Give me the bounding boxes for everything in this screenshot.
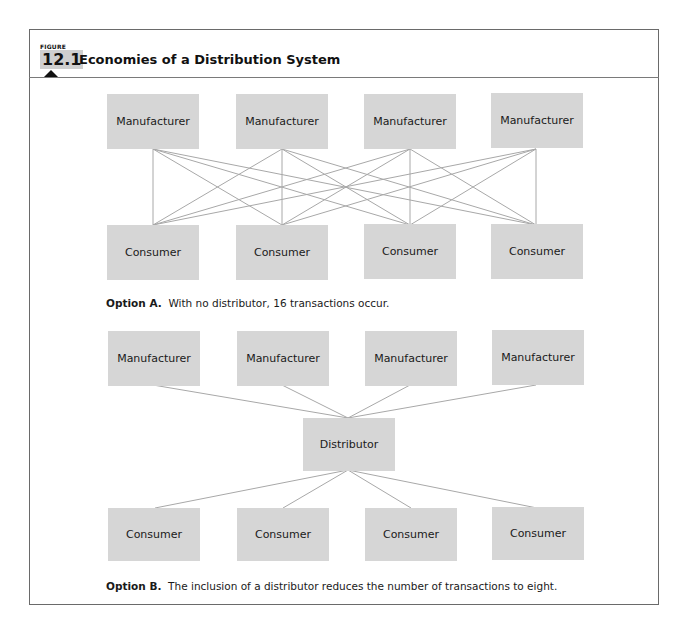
option-a-manufacturer-4: Manufacturer (491, 93, 583, 148)
option-a-consumer-1: Consumer (107, 225, 199, 280)
option-b-consumer-3: Consumer (365, 508, 457, 561)
option-b-manufacturer-4: Manufacturer (492, 330, 584, 385)
option-a-manufacturer-3: Manufacturer (364, 94, 456, 149)
option-b-caption: Option B. The inclusion of a distributor… (106, 580, 557, 592)
option-b-manufacturer-2: Manufacturer (237, 331, 329, 386)
option-a-lines (153, 149, 536, 225)
option-b-manufacturer-1: Manufacturer (108, 331, 200, 386)
option-a-consumer-2: Consumer (236, 225, 328, 280)
option-b-caption-text: The inclusion of a distributor reduces t… (168, 580, 557, 592)
option-b-consumer-2: Consumer (237, 508, 329, 561)
option-b-caption-label: Option B. (106, 580, 161, 592)
option-a-caption-label: Option A. (106, 297, 162, 309)
option-a-manufacturer-1: Manufacturer (107, 94, 199, 149)
option-a-consumer-3: Consumer (364, 224, 456, 279)
option-a-caption-text: With no distributor, 16 transactions occ… (168, 297, 389, 309)
option-b-consumer-4: Consumer (492, 507, 584, 560)
option-a-consumer-4: Consumer (491, 224, 583, 279)
option-b-manufacturer-3: Manufacturer (365, 331, 457, 386)
option-a-caption: Option A. With no distributor, 16 transa… (106, 297, 389, 309)
connection-lines (0, 0, 690, 636)
option-a-manufacturer-2: Manufacturer (236, 94, 328, 149)
option-b-distributor: Distributor (303, 418, 395, 471)
option-b-consumer-1: Consumer (108, 508, 200, 561)
